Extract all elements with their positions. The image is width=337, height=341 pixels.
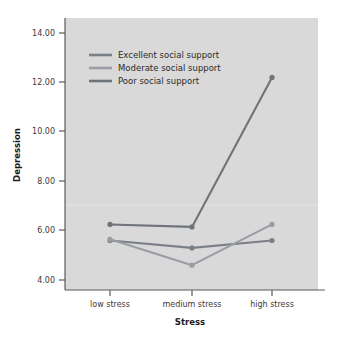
- data-point-marker: [107, 237, 112, 242]
- y-tick-label-14: 14.00: [32, 29, 55, 38]
- y-tick-label-12: 12.00: [32, 78, 55, 87]
- y-tick-label-4: 4.00: [37, 276, 55, 285]
- data-point-marker: [269, 222, 274, 227]
- y-tick-label-6: 6.00: [37, 226, 55, 235]
- legend-label-excellent: Excellent social support: [118, 50, 220, 60]
- interaction-plot-svg: 14.00 12.00 10.00 8.00 6.00 4.00 Depress…: [0, 0, 337, 341]
- x-tick-label-medium: medium stress: [162, 300, 221, 309]
- legend-label-moderate: Moderate social support: [118, 63, 221, 73]
- data-point-marker: [189, 263, 194, 268]
- chart-figure: 14.00 12.00 10.00 8.00 6.00 4.00 Depress…: [0, 0, 337, 341]
- x-axis-title: Stress: [175, 317, 205, 327]
- y-tick-label-10: 10.00: [32, 127, 55, 136]
- y-tick-label-8: 8.00: [37, 177, 55, 186]
- data-point-marker: [189, 224, 194, 229]
- y-axis-title: Depression: [12, 128, 22, 182]
- data-point-marker: [269, 75, 274, 80]
- x-tick-label-low: low stress: [90, 300, 130, 309]
- x-tick-label-high: high stress: [250, 300, 294, 309]
- data-point-marker: [269, 238, 274, 243]
- data-point-marker: [107, 222, 112, 227]
- data-point-marker: [189, 245, 194, 250]
- legend-label-poor: Poor social support: [118, 76, 200, 86]
